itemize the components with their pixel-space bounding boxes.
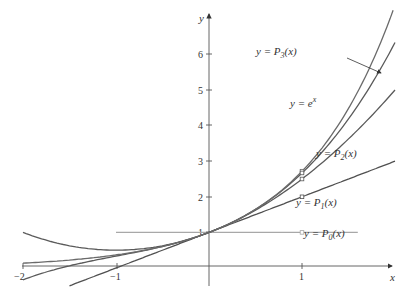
y-tick-label: 6 (198, 49, 203, 60)
y-axis-label: y (198, 12, 204, 24)
y-tick-label: 4 (198, 120, 203, 131)
x-tick-label: −2 (14, 271, 25, 282)
y-tick-label: 5 (198, 85, 203, 96)
curve-p1 (70, 161, 396, 286)
label-exp: y = ex (289, 95, 317, 109)
point-marker (300, 177, 304, 181)
x-tick-label: 1 (299, 271, 304, 282)
y-tick-label: 3 (198, 156, 203, 167)
label-p0: y = P0(x) (303, 227, 345, 242)
taylor-polynomials-chart: x y −2 −1 1 1 2 3 4 5 6 y = P3(x (0, 0, 417, 296)
point-marker (300, 171, 304, 175)
label-p1: y = P1(x) (295, 196, 337, 211)
curve-exp (23, 10, 393, 263)
label-p3: y = P3(x) (255, 45, 297, 60)
x-tick-label: −1 (110, 271, 121, 282)
y-ticks: 1 2 3 4 5 6 (198, 49, 212, 238)
x-axis-label: x (389, 271, 395, 283)
p3-arrow (347, 58, 381, 73)
label-p2: y = P2(x) (315, 147, 357, 162)
y-tick-label: 2 (198, 192, 203, 203)
curve-labels: y = P3(x) y = ex y = P2(x) y = P1(x) y =… (255, 45, 381, 242)
